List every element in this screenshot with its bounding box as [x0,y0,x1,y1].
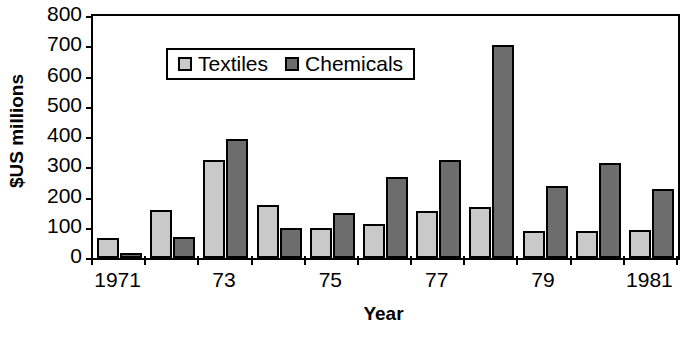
y-axis-tickmark [86,46,93,48]
y-axis-tick-label: 500 [47,94,82,115]
bar-chemicals-1978 [492,45,514,258]
y-axis-tickmark [86,137,93,139]
y-axis-tick-label: 600 [47,64,82,85]
y-axis-tickmark [86,77,93,79]
y-axis-tickmark [86,107,93,109]
y-axis-tick-label: 800 [47,3,82,24]
bar-chemicals-1975 [333,213,355,258]
y-axis-tick-label: 300 [47,154,82,175]
bar-textiles-1974 [257,205,279,258]
legend-entry-chemicals: Chemicals [285,53,403,74]
x-axis-tickmark [463,256,465,265]
x-axis-tickmark [623,256,625,265]
bar-textiles-1981 [629,230,651,258]
y-axis-tick-label: 100 [47,215,82,236]
x-axis-tickmark [357,256,359,265]
bar-textiles-1979 [523,231,545,258]
bar-textiles-1973 [203,160,225,258]
x-axis-tickmark [91,256,93,265]
x-axis-tickmark [304,256,306,265]
y-axis-tick-label: 400 [47,124,82,145]
bar-chemicals-1980 [599,163,621,258]
bar-group [572,16,625,258]
bar-chart-figure: $US millions 8007006005004003002001000 1… [0,0,682,337]
x-axis-tick-label: 73 [212,268,235,292]
x-axis-tick-label: 77 [425,268,448,292]
bar-group [518,16,571,258]
x-axis-title: Year [91,303,676,325]
bar-textiles-1972 [150,210,172,258]
x-axis-tickmark [410,256,412,265]
y-axis-tickmark [86,198,93,200]
bar-textiles-1978 [469,207,491,258]
bar-textiles-1975 [310,228,332,258]
bar-chemicals-1979 [546,186,568,258]
legend-label-textiles: Textiles [198,53,268,74]
legend-entry-textiles: Textiles [178,53,268,74]
x-axis-tickmark [570,256,572,265]
x-axis-tickmark [516,256,518,265]
y-axis-tick-label: 200 [47,185,82,206]
bar-chemicals-1972 [173,237,195,258]
y-axis-tickmark [86,16,93,18]
y-axis-tick-label: 0 [70,245,82,266]
bar-chemicals-1976 [386,177,408,258]
bar-chemicals-1973 [226,139,248,258]
bar-chemicals-1981 [652,189,674,258]
legend-label-chemicals: Chemicals [305,53,403,74]
legend-swatch-textiles-icon [178,57,192,71]
y-axis-title: $US millions [0,0,34,262]
x-axis-tick-label: 1981 [626,268,673,292]
x-axis-tickmarks [91,256,680,266]
bar-group [465,16,518,258]
y-axis-tickmark [86,228,93,230]
bar-textiles-1977 [416,211,438,258]
y-axis-tick-labels: 8007006005004003002001000 [34,0,87,262]
chart-legend: Textiles Chemicals [166,48,415,80]
x-axis-tickmark [676,256,678,265]
y-axis-tickmark [86,167,93,169]
x-axis-tick-label: 1971 [94,268,141,292]
bar-group [412,16,465,258]
x-axis-tickmark [197,256,199,265]
bar-textiles-1976 [363,224,385,258]
y-axis-tick-label: 700 [47,33,82,54]
legend-swatch-chemicals-icon [285,57,299,71]
y-axis-title-label: $US millions [6,74,28,188]
x-axis-tick-label: 75 [319,268,342,292]
x-axis-tickmark [251,256,253,265]
x-axis-tick-labels: 1971737577791981 [91,268,682,298]
bar-group [625,16,678,258]
x-axis-tick-label: 79 [531,268,554,292]
x-axis-tickmark [144,256,146,265]
bar-group [93,16,146,258]
bar-chemicals-1974 [280,228,302,258]
bar-chemicals-1977 [439,160,461,258]
bar-textiles-1980 [576,231,598,258]
